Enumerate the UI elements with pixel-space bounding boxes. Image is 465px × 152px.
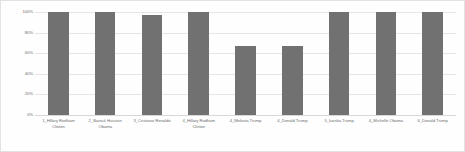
y-axis-tick-label: 100% bbox=[9, 10, 33, 14]
bar-slot bbox=[409, 12, 456, 115]
bar bbox=[422, 12, 443, 115]
y-axis-tick-label: 20% bbox=[9, 92, 33, 96]
bar-slot bbox=[82, 12, 129, 115]
bar bbox=[329, 12, 350, 115]
bar-slot bbox=[362, 12, 409, 115]
chart-plot-wrapper: 0%20%40%60%80%100% 1_Hillary Rodham Clin… bbox=[1, 1, 464, 151]
bar-slot bbox=[316, 12, 363, 115]
y-axis-tick-label: 60% bbox=[9, 51, 33, 55]
x-axis-tick-label: 4_Hillary Rodham Clinton bbox=[175, 118, 222, 144]
bar-slot bbox=[175, 12, 222, 115]
bar bbox=[376, 12, 397, 115]
axis-baseline bbox=[35, 115, 456, 116]
y-axis: 0%20%40%60%80%100% bbox=[9, 12, 33, 115]
x-axis: 1_Hillary Rodham Clinton2_Barack Hussein… bbox=[35, 118, 456, 144]
bar bbox=[188, 12, 209, 115]
x-axis-tick-label: 4_Melania Trump bbox=[222, 118, 269, 144]
bar bbox=[282, 46, 303, 115]
x-axis-tick-label: 4_Michelle Obama bbox=[362, 118, 409, 144]
bar-slot bbox=[129, 12, 176, 115]
bar bbox=[235, 46, 256, 115]
x-axis-tick-label: 3_Cristiano Renaldo bbox=[129, 118, 176, 144]
bar-chart: 0%20%40%60%80%100% 1_Hillary Rodham Clin… bbox=[0, 0, 465, 152]
bar-slot bbox=[269, 12, 316, 115]
bar bbox=[142, 15, 163, 115]
plot-area bbox=[35, 12, 456, 115]
x-axis-tick-label: 6_Donald Trump bbox=[409, 118, 456, 144]
y-axis-tick-label: 80% bbox=[9, 30, 33, 34]
x-axis-tick-label: 4_Donald Trump bbox=[269, 118, 316, 144]
bar-series bbox=[35, 12, 456, 115]
bar bbox=[95, 12, 116, 115]
x-axis-tick-label: 5_Ivanka Trump bbox=[316, 118, 363, 144]
y-axis-tick-label: 0% bbox=[9, 113, 33, 117]
x-axis-tick-label: 2_Barack Hussein Obama bbox=[82, 118, 129, 144]
bar bbox=[48, 12, 69, 115]
bar-slot bbox=[222, 12, 269, 115]
bar-slot bbox=[35, 12, 82, 115]
x-axis-tick-label: 1_Hillary Rodham Clinton bbox=[35, 118, 82, 144]
y-axis-tick-label: 40% bbox=[9, 72, 33, 76]
